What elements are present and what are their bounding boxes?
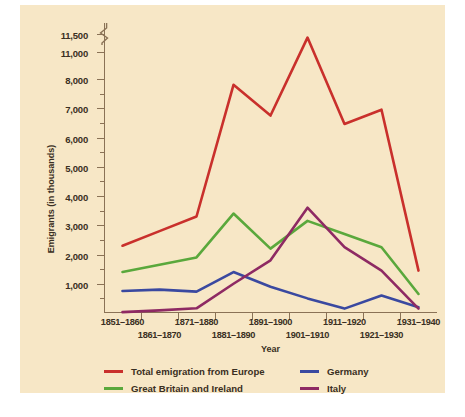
y-axis-tick-label: 6,000 (65, 133, 88, 144)
y-axis-tick-label: 4,000 (65, 192, 88, 203)
y-axis-tick-label: 3,000 (65, 221, 88, 232)
legend-label: Great Britain and Ireland (131, 383, 243, 394)
legend-label: Germany (327, 366, 369, 377)
x-axis-tick-label: 1911–1920 (323, 317, 366, 327)
legend-item[interactable]: Great Britain and Ireland (104, 383, 300, 394)
y-axis-title: Emigrants (in thousands) (46, 119, 56, 279)
legend-item[interactable]: Germany (300, 366, 369, 377)
y-axis-tick-label: 8,000 (65, 75, 88, 86)
y-axis-tick-label: 1,000 (65, 279, 88, 290)
x-axis-tick-label: 1851–1860 (101, 317, 144, 327)
y-axis-tick: 11,000 (97, 52, 104, 53)
legend-row: Great Britain and IrelandItaly (104, 380, 444, 397)
chart-panel: Emigrants (in thousands) 1,0002,0003,000… (20, 5, 445, 393)
series-line (123, 272, 419, 309)
series-line (123, 214, 419, 294)
legend-color-swatch (104, 370, 123, 373)
legend-label: Italy (327, 383, 346, 394)
x-axis-tick-label: 1901–1910 (286, 330, 329, 340)
y-axis-break-icon (98, 23, 114, 45)
x-axis-tick-label: 1881–1890 (212, 330, 255, 340)
y-axis-tick-label: 5,000 (65, 162, 88, 173)
y-axis-tick: 7,000 (97, 108, 104, 109)
y-axis-tick: 8,000 (97, 79, 104, 80)
x-axis-tick-label: 1931–1940 (397, 317, 440, 327)
legend-color-swatch (300, 387, 319, 390)
y-axis-tick-label: 11,000 (61, 48, 88, 59)
legend-color-swatch (104, 387, 123, 390)
plot-area: 1,0002,0003,0004,0005,0006,0007,0008,000… (104, 23, 437, 313)
y-axis-tick: 1,000 (97, 284, 104, 285)
legend-item[interactable]: Italy (300, 383, 346, 394)
y-axis-tick: 3,000 (97, 225, 104, 226)
y-axis-tick: 2,000 (97, 255, 104, 256)
y-axis-tick: 4,000 (97, 196, 104, 197)
x-axis-tick-label: 1921–1930 (360, 330, 403, 340)
series-line (123, 38, 419, 271)
y-axis-tick: 6,000 (97, 138, 104, 139)
x-axis-tick-label: 1871–1880 (175, 317, 218, 327)
y-axis-tick-label: 11,500 (61, 30, 88, 41)
chart-legend: Total emigration from EuropeGermanyGreat… (104, 363, 444, 397)
legend-label: Total emigration from Europe (131, 366, 265, 377)
y-axis-tick-label: 7,000 (65, 104, 88, 115)
x-axis-title: Year (104, 344, 437, 354)
x-axis-tick-label: 1861–1870 (138, 330, 181, 340)
y-axis-tick: 5,000 (97, 167, 104, 168)
x-axis-tick-label: 1891–1900 (249, 317, 292, 327)
series-lines (104, 23, 437, 313)
y-axis-tick-label: 2,000 (65, 250, 88, 261)
legend-color-swatch (300, 370, 319, 373)
series-line (123, 208, 419, 312)
chart-page: Emigrants (in thousands) 1,0002,0003,000… (0, 0, 465, 417)
legend-row: Total emigration from EuropeGermany (104, 363, 444, 380)
legend-item[interactable]: Total emigration from Europe (104, 366, 300, 377)
